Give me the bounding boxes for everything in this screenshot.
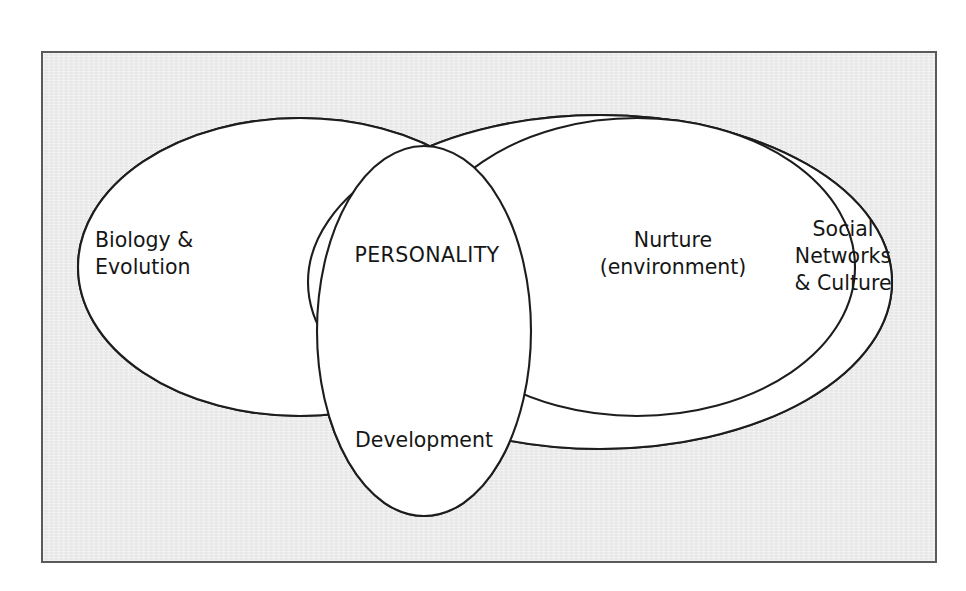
venn-diagram: Biology & Evolution PERSONALITY Nurture … <box>0 0 966 591</box>
label-personality: PERSONALITY <box>355 243 500 267</box>
ellipse-outlines <box>78 115 892 516</box>
label-social-line3: & Culture <box>794 271 891 295</box>
label-biology-evolution-line2: Evolution <box>95 255 191 279</box>
label-development: Development <box>355 428 493 452</box>
development-outline[interactable] <box>317 146 531 516</box>
diagram-page: Biology & Evolution PERSONALITY Nurture … <box>0 0 966 591</box>
label-nurture-line1: Nurture <box>634 228 712 252</box>
label-social-line1: Social <box>813 217 874 241</box>
label-nurture-line2: (environment) <box>600 255 747 279</box>
label-biology-evolution-line1: Biology & <box>95 228 193 252</box>
label-social-line2: Networks <box>795 244 891 268</box>
